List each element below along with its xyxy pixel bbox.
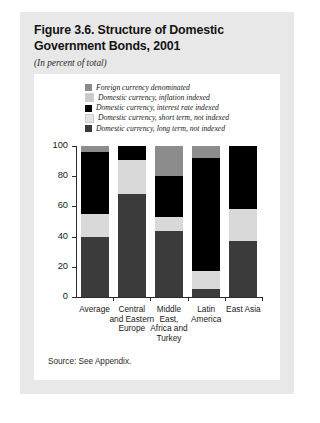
bar-segment <box>81 214 109 237</box>
y-axis-tick-label: 60 <box>34 200 68 210</box>
source-note: Source: See Appendix. <box>48 357 131 366</box>
x-axis-tick <box>225 298 226 301</box>
y-axis-tick <box>72 176 76 177</box>
bar-stack <box>229 146 257 297</box>
x-axis-category-label-line: America <box>184 315 229 325</box>
figure-subtitle: (In percent of total) <box>34 57 280 69</box>
x-axis <box>76 297 263 298</box>
bar-segment <box>155 176 183 217</box>
figure-card: Figure 3.6. Structure of Domestic Govern… <box>20 12 294 394</box>
y-axis-tick-label: 20 <box>34 261 68 271</box>
bar-segment <box>118 194 146 297</box>
x-axis-tick <box>113 298 114 301</box>
bar-segment <box>192 289 220 297</box>
figure-title-line1: Figure 3.6. Structure of Domestic <box>34 23 224 37</box>
x-axis-tick <box>150 298 151 301</box>
y-axis-tick-label: 100 <box>34 140 68 150</box>
figure-title: Figure 3.6. Structure of Domestic Govern… <box>34 23 280 54</box>
figure-title-line2: Government Bonds, 2001 <box>34 39 180 53</box>
bar-segment <box>155 146 183 176</box>
y-axis-tick <box>72 297 76 298</box>
bar-segment <box>81 146 109 152</box>
bar-stack <box>81 146 109 297</box>
bar-segment <box>192 146 220 158</box>
bar-stack <box>118 146 146 297</box>
y-axis-tick <box>72 237 76 238</box>
x-axis-category-label-line: East Asia <box>221 305 266 315</box>
y-axis-tick-label: 0 <box>34 291 68 301</box>
bar-segment <box>155 217 183 231</box>
bar-segment <box>229 209 257 241</box>
bar-stack <box>192 146 220 297</box>
x-axis-tick <box>188 298 189 301</box>
bar-segment <box>81 237 109 297</box>
bar-segment <box>192 271 220 289</box>
bar-segment <box>229 241 257 297</box>
bar-segment <box>155 231 183 297</box>
y-axis-tick-label: 40 <box>34 231 68 241</box>
y-axis-tick-label: 80 <box>34 170 68 180</box>
y-axis-tick <box>72 206 76 207</box>
bar-segment <box>229 146 257 209</box>
x-axis-tick <box>262 298 263 301</box>
plot-panel: Foreign currency denominatedDomestic cur… <box>34 74 280 380</box>
x-axis-category-label: East Asia <box>221 305 266 315</box>
bar-segment <box>118 146 146 160</box>
chart-plot-area: 020406080100AverageCentraland EasternEur… <box>34 74 280 380</box>
y-axis-tick <box>72 267 76 268</box>
bar-segment <box>192 158 220 271</box>
bar-segment <box>81 152 109 214</box>
x-axis-category-label-line: Turkey <box>146 334 191 344</box>
y-axis-tick <box>72 146 76 147</box>
y-axis <box>76 146 77 298</box>
title-block: Figure 3.6. Structure of Domestic Govern… <box>20 12 294 76</box>
bar-stack <box>155 146 183 297</box>
bar-segment <box>118 160 146 195</box>
